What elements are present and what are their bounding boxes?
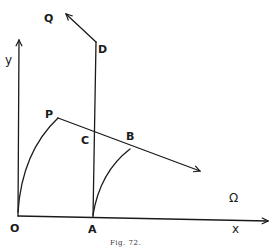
label-x: x (232, 222, 239, 236)
arrow-DQ (66, 14, 96, 42)
arc-AB (93, 149, 130, 215)
label-A: A (88, 223, 97, 236)
line-AD (93, 42, 96, 217)
label-omega: Ω (229, 191, 238, 205)
arc-OP (18, 118, 58, 212)
x-axis (18, 216, 268, 221)
label-D: D (98, 43, 107, 56)
label-B: B (126, 130, 134, 143)
label-y: y (5, 53, 12, 67)
label-Q: Q (44, 12, 53, 25)
label-C: C (81, 134, 89, 147)
figure-caption: Fig. 72. (110, 239, 141, 247)
y-axis (18, 40, 19, 216)
label-O: O (10, 222, 19, 235)
label-P: P (45, 108, 53, 121)
figure-72-diagram: y x Q D P C B O A Ω Fig. 72. (0, 0, 272, 251)
line-PB-arrow (58, 118, 200, 171)
